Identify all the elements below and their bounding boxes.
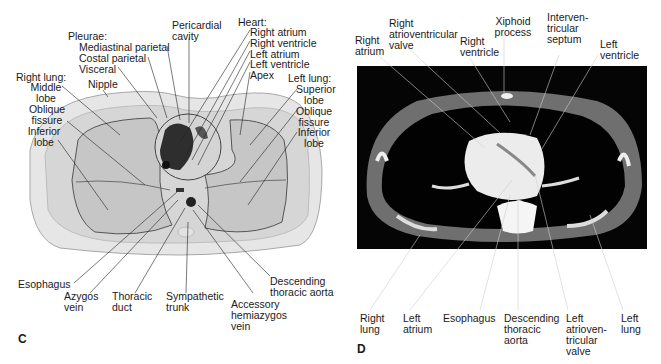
- label-heart-apex: Apex: [250, 70, 274, 81]
- label-inferior-lobe-left: Inferior lobe: [296, 127, 332, 149]
- label-superior-lobe: Superior lobe: [296, 84, 332, 106]
- label-d-right-av-valve: Right atrioventricular valve: [389, 18, 458, 51]
- label-d-right-lung: Right lung: [360, 313, 385, 335]
- label-d-left-ventricle: Left ventricle: [600, 39, 639, 61]
- label-middle-lobe: Middle lobe: [26, 82, 66, 104]
- label-d-right-ventricle: Right ventricle: [460, 36, 499, 58]
- label-thoracic-duct: Thoracic duct: [112, 291, 152, 313]
- label-d-esophagus: Esophagus: [443, 313, 496, 324]
- panel-c-letter: C: [18, 332, 27, 346]
- label-visceral: Visceral: [79, 64, 116, 75]
- label-azygos-vein: Azygos vein: [64, 291, 98, 313]
- label-d-xiphoid-process: Xiphoid process: [492, 16, 534, 38]
- label-inferior-lobe-right: Inferior lobe: [24, 126, 64, 148]
- label-oblique-fissure-right: Oblique fissure: [24, 104, 70, 126]
- label-oblique-fissure-left: Oblique fissure: [296, 106, 332, 128]
- label-d-right-atrium: Right atrium: [355, 35, 384, 57]
- panel-d-letter: D: [357, 342, 366, 356]
- label-sympathetic-trunk: Sympathetic trunk: [166, 291, 224, 313]
- label-d-left-lung: Left lung: [621, 313, 641, 335]
- label-d-descending-thoracic-aorta: Descending thoracic aorta: [504, 313, 559, 346]
- label-descending-thoracic-aorta-c: Descending thoracic aorta: [270, 276, 334, 298]
- label-d-left-atrium: Left atrium: [403, 313, 432, 335]
- label-d-left-av-valve: Left atrioven- tricular valve: [566, 313, 607, 357]
- label-esophagus-c: Esophagus: [18, 279, 71, 290]
- label-nipple: Nipple: [88, 79, 118, 90]
- label-pericardial-cavity: Pericardial cavity: [172, 20, 222, 42]
- label-d-interventricular-septum: Interven- tricular septum: [547, 12, 588, 45]
- label-accessory-hemiazygos-vein: Accessory hemiazygos vein: [231, 299, 287, 332]
